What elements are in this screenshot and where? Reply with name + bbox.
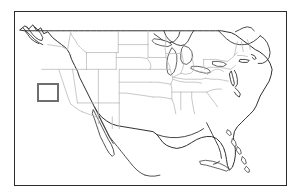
bahamas-island-5 bbox=[244, 166, 249, 172]
map-figure bbox=[0, 0, 302, 196]
map-border-frame bbox=[14, 11, 287, 186]
region-highlight-box[interactable] bbox=[37, 83, 59, 102]
bahamas-island-4 bbox=[241, 156, 246, 164]
canada-north-shore bbox=[235, 27, 254, 32]
mexico-southern-limit bbox=[145, 175, 160, 176]
bahamas-island-3 bbox=[236, 146, 241, 154]
ca-az-border bbox=[71, 104, 83, 112]
cuba-island bbox=[200, 160, 230, 171]
ca-nv-diagonal bbox=[59, 69, 71, 104]
nv-ut-border bbox=[73, 69, 78, 103]
